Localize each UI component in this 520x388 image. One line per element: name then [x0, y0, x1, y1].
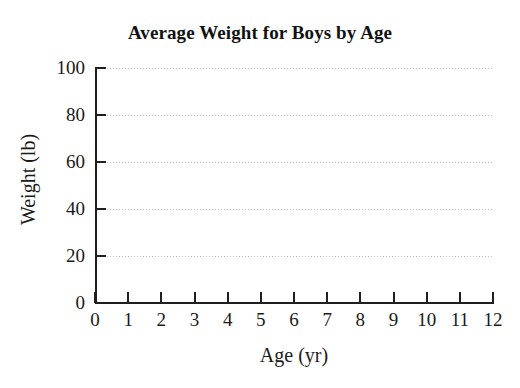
plot-area	[95, 68, 493, 303]
x-axis-title: Age (yr)	[95, 344, 493, 367]
x-axis-tick	[393, 292, 395, 303]
y-axis-tick	[95, 161, 106, 163]
x-axis-tick	[326, 292, 328, 303]
x-axis-tick	[492, 292, 494, 303]
x-axis-tick	[227, 292, 229, 303]
y-axis-tick	[95, 302, 106, 304]
x-axis-tick	[459, 292, 461, 303]
y-axis-tick	[95, 255, 106, 257]
chart-figure: Average Weight for Boys by Age 020406080…	[0, 0, 520, 388]
y-axis-tick	[95, 114, 106, 116]
x-axis-tick	[194, 292, 196, 303]
gridline	[95, 256, 493, 257]
chart-title: Average Weight for Boys by Age	[0, 22, 520, 44]
gridline	[95, 209, 493, 210]
y-axis-tick-label: 100	[25, 58, 85, 77]
x-axis-tick	[260, 292, 262, 303]
y-axis-title: Weight (lb)	[17, 90, 40, 270]
y-axis-tick	[95, 208, 106, 210]
x-axis-tick	[94, 292, 96, 303]
gridline	[95, 162, 493, 163]
x-axis-tick-label: 12	[473, 310, 513, 329]
x-axis-tick	[426, 292, 428, 303]
x-axis-tick	[359, 292, 361, 303]
x-axis-tick	[293, 292, 295, 303]
x-axis-tick	[127, 292, 129, 303]
y-axis-tick	[95, 67, 106, 69]
gridline	[95, 68, 493, 69]
x-axis-tick	[160, 292, 162, 303]
gridline	[95, 115, 493, 116]
